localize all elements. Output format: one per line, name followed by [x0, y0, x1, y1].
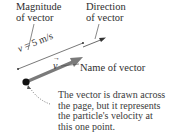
caption-line1: The vector is drawn across — [58, 90, 179, 101]
magnitude-label-line1: Magnitude — [16, 1, 62, 12]
direction-arrow-icon — [83, 38, 106, 48]
magnitude-label: Magnitude of vector — [16, 1, 62, 23]
particle-point — [22, 78, 29, 85]
name-of-vector-label: Name of vector — [80, 62, 145, 73]
magnitude-label-line2: of vector — [16, 12, 62, 23]
caption: The vector is drawn across the page, but… — [58, 90, 179, 132]
direction-label: Direction of vector — [86, 1, 126, 23]
direction-label-line1: Direction — [86, 1, 126, 12]
caption-pointer-dotted-line — [27, 85, 50, 104]
vector-overarrow-icon: → — [53, 54, 60, 62]
caption-line3: the particle's velocity at — [58, 111, 179, 122]
caption-line4: this one point. — [58, 122, 179, 133]
vector-symbol: → v — [53, 60, 57, 71]
direction-label-line2: of vector — [86, 12, 126, 23]
vector-diagram: Magnitude of vector Direction of vector … — [0, 0, 179, 137]
direction-leader-line — [95, 24, 99, 39]
